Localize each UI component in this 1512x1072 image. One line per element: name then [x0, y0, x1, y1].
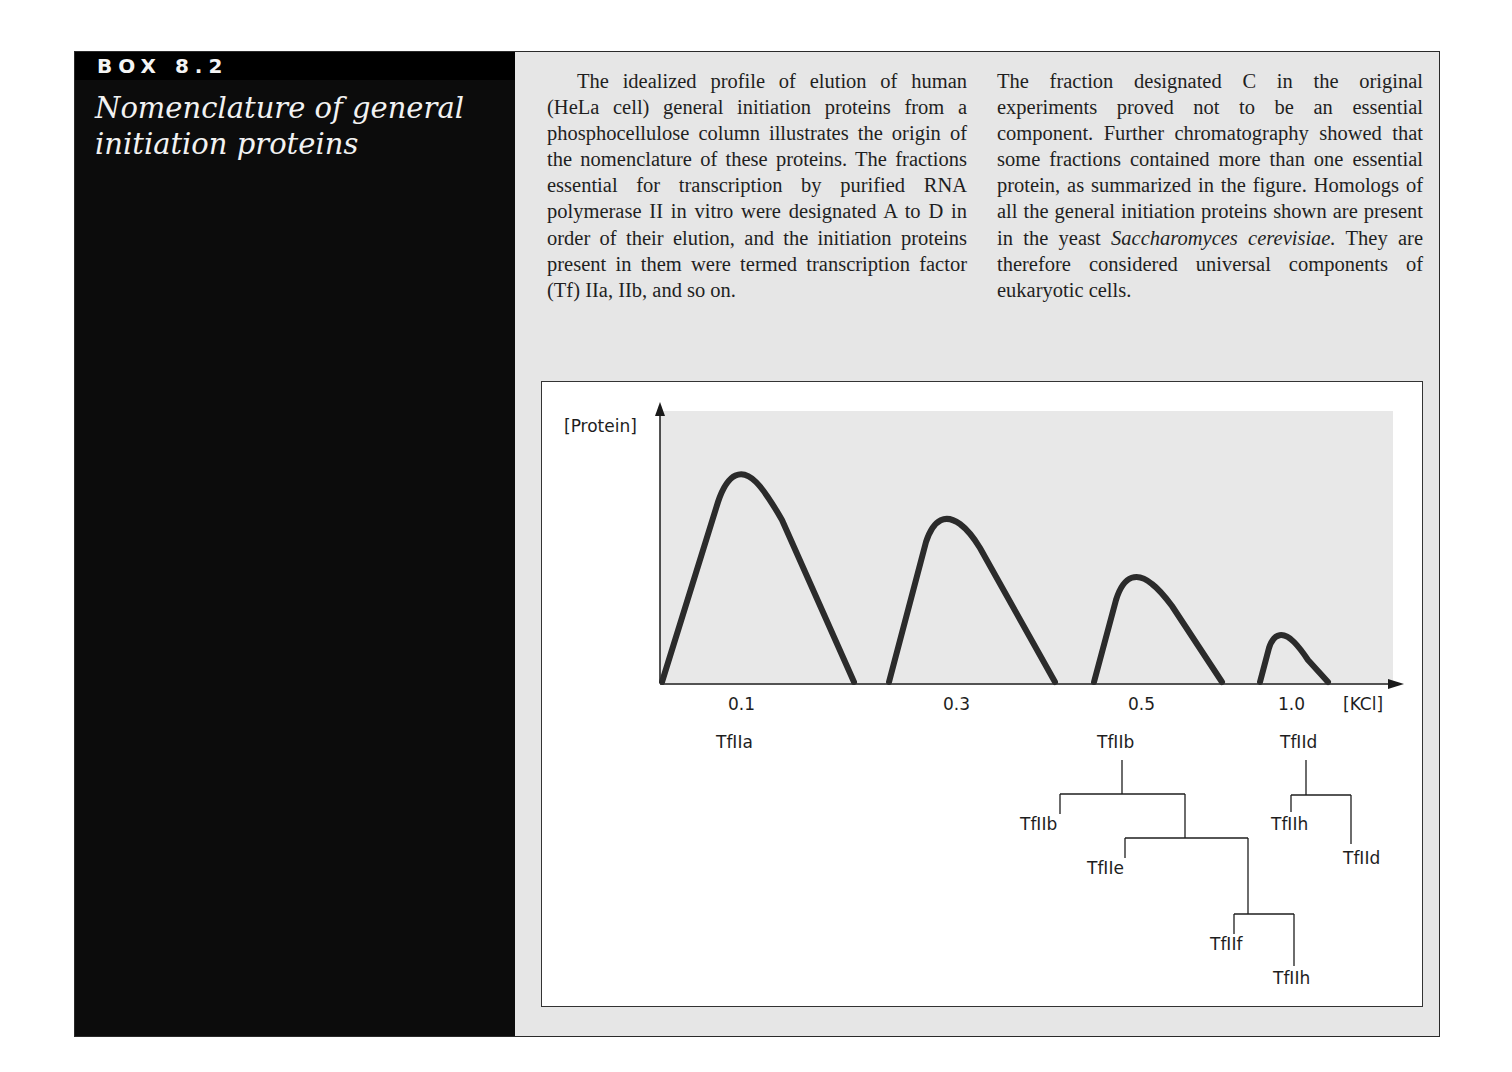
fraction-label-tfiib: TfIIb — [1097, 732, 1134, 752]
tick-0-3: 0.3 — [943, 694, 970, 714]
y-axis-label: [Protein] — [564, 416, 637, 436]
species-name: Saccharomyces cerevisiae. — [1111, 227, 1336, 249]
tree-leaf-tfiib: TfIIb — [1020, 814, 1057, 834]
fraction-label-tfiid: TfIId — [1280, 732, 1317, 752]
text-column-2: The fraction designated C in the origina… — [997, 68, 1423, 303]
tree-leaf-tfiie: TfIIe — [1087, 858, 1124, 878]
tick-0-5: 0.5 — [1128, 694, 1155, 714]
box-sidebar: BOX 8.2 Nomenclature of general initiati… — [75, 52, 515, 1036]
paragraph-2: The fraction designated C in the origina… — [997, 68, 1423, 303]
text-column-1: The idealized profile of elution of huma… — [547, 68, 967, 303]
x-axis-arrow-icon — [1388, 679, 1404, 689]
tree-leaf-tfiif: TfIIf — [1210, 934, 1242, 954]
box-label: BOX 8.2 — [97, 54, 228, 78]
y-axis-arrow-icon — [655, 402, 665, 416]
fraction-label-tfiia: TfIIa — [716, 732, 753, 752]
plot-area — [660, 411, 1393, 683]
elution-figure: [Protein] 0.1 0.3 0.5 1.0 [KCl] TfIIa Tf… — [541, 381, 1423, 1007]
tree-leaf-tfiih: TfIIh — [1273, 968, 1310, 988]
tick-1-0: 1.0 — [1278, 694, 1305, 714]
paragraph-2-text: The fraction designated C in the origina… — [997, 70, 1423, 249]
tree-leaf-tfiid-d: TfIId — [1343, 848, 1380, 868]
box-8-2: BOX 8.2 Nomenclature of general initiati… — [74, 51, 1440, 1037]
tick-0-1: 0.1 — [728, 694, 755, 714]
tree-leaf-tfiih-d: TfIIh — [1271, 814, 1308, 834]
x-axis-label: [KCl] — [1343, 694, 1383, 714]
paragraph-1: The idealized profile of elution of huma… — [547, 68, 967, 303]
box-title: Nomenclature of general initiation prote… — [95, 90, 495, 162]
